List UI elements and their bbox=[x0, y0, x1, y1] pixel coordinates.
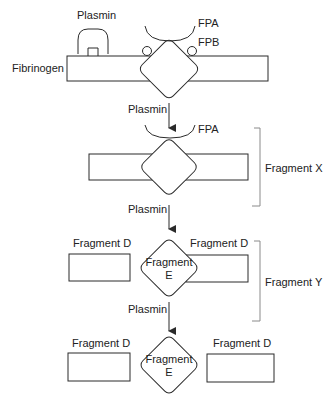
fragment-e-label-line1: Fragment bbox=[145, 256, 192, 268]
fpb-label: FPB bbox=[198, 36, 219, 48]
fragment-d-left-label: Fragment D bbox=[73, 237, 131, 249]
plasmin-label-step2: Plasmin bbox=[128, 203, 167, 215]
plasmin-binding-site bbox=[88, 48, 98, 56]
fpa-arc bbox=[145, 26, 195, 41]
plasmin-label-step3: Plasmin bbox=[128, 303, 167, 315]
fpa-label: FPA bbox=[198, 17, 219, 29]
plasmin-enzyme-shape bbox=[78, 29, 108, 54]
final-fragment-d-left-box bbox=[68, 353, 130, 381]
fpa-arc-2 bbox=[145, 125, 195, 138]
fragment-x-label: Fragment X bbox=[265, 162, 323, 174]
final-fragment-d-left-label: Fragment D bbox=[72, 337, 130, 349]
fragment-x-central-domain bbox=[139, 137, 198, 196]
final-products-stage: Fragment D Fragment D Fragment E bbox=[68, 335, 274, 396]
fpb-right-circle bbox=[188, 47, 197, 56]
plasmin-label-top: Plasmin bbox=[77, 9, 116, 21]
plasmin-step-1: Plasmin bbox=[128, 103, 169, 128]
fragment-e-label-line2: E bbox=[165, 269, 172, 281]
plasmin-label-step1: Plasmin bbox=[128, 103, 167, 115]
final-fragment-e-label-line2: E bbox=[165, 366, 172, 378]
final-fragment-e-diamond bbox=[139, 335, 200, 396]
fragment-d-right-label: Fragment D bbox=[190, 237, 248, 249]
fpa-label-2: FPA bbox=[198, 123, 219, 135]
final-fragment-d-right-box bbox=[207, 354, 274, 382]
fibrinogen-label: Fibrinogen bbox=[12, 62, 64, 74]
fibrinogen-degradation-diagram: Plasmin FPA FPB Fibrinogen Plasmin FPA F… bbox=[0, 0, 331, 413]
fpb-left-circle bbox=[143, 47, 152, 56]
fibrinogen-stage: Plasmin FPA FPB Fibrinogen bbox=[12, 9, 268, 100]
fragment-x-bracket bbox=[252, 128, 260, 206]
fragment-d-left-box bbox=[69, 254, 130, 281]
plasmin-step-2: Plasmin bbox=[128, 203, 169, 229]
fragment-y-stage: Fragment D Fragment D Fragment E Fragmen… bbox=[69, 237, 323, 321]
fragment-y-label: Fragment Y bbox=[265, 276, 323, 288]
final-fragment-e-label-line1: Fragment bbox=[145, 353, 192, 365]
fragment-y-bracket bbox=[252, 241, 260, 321]
final-fragment-d-right-label: Fragment D bbox=[213, 337, 271, 349]
fragment-x-stage: FPA Fragment X bbox=[89, 123, 323, 206]
plasmin-step-3: Plasmin bbox=[128, 302, 169, 331]
